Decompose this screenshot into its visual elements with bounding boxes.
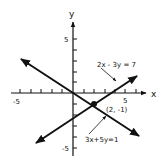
x-tick-pos-label: 5	[123, 97, 127, 105]
line2-label: 3x+5y=1	[85, 136, 118, 144]
y-tick-pos-label: 5	[64, 36, 68, 44]
point-label: (2, -1)	[106, 106, 128, 114]
graph: y x -5 5 5 -5 2x - 3y = 7 3x+5y=1 (2, -1…	[0, 0, 168, 168]
y-axis-label: y	[69, 9, 75, 19]
x-tick-neg-label: -5	[13, 98, 20, 106]
line-3x-5y-1	[21, 59, 139, 136]
label-pointer-1	[101, 68, 116, 81]
x-axis-label: x	[151, 89, 157, 99]
y-tick-neg-label: -5	[62, 145, 69, 153]
intersection-point	[91, 101, 97, 107]
label-pointer-2	[89, 116, 106, 134]
line1-label: 2x - 3y = 7	[97, 61, 136, 69]
